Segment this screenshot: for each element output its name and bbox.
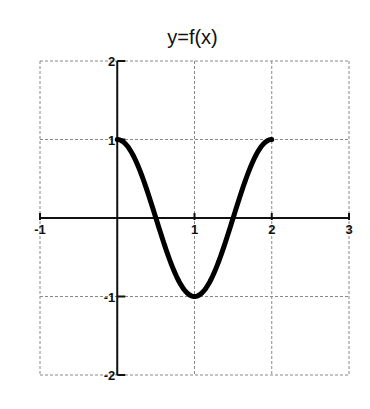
x-tick-label: 2 [268,222,275,237]
y-tick-label: -1 [104,290,116,305]
y-tick-label: 1 [108,133,115,148]
y-tick-label: 2 [108,54,115,69]
plot-area: -112321-1-2 [0,0,370,409]
x-tick-label: 1 [191,222,198,237]
x-tick-label: 3 [345,222,352,237]
y-tick-label: -2 [104,368,116,383]
x-tick-label: -1 [34,222,46,237]
